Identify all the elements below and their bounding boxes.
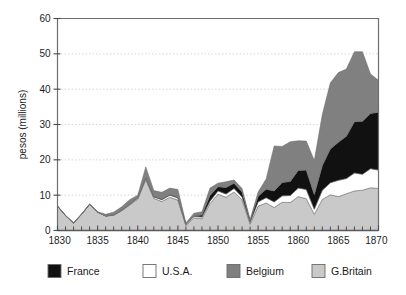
y-ticklabel-20: 20 xyxy=(39,154,51,165)
y-ticklabel-40: 40 xyxy=(39,84,51,95)
y-axis-title: pesos (millions) xyxy=(17,90,28,159)
y-ticklabel-60: 60 xyxy=(39,13,51,24)
stacked-area-chart: 0102030405060 18301835184018451850185518… xyxy=(0,0,406,295)
x-ticklabel-1865: 1865 xyxy=(327,235,350,246)
legend-label-u-s-a-: U.S.A. xyxy=(162,265,192,277)
x-ticklabel-1830: 1830 xyxy=(49,235,72,246)
y-axis-title-text: pesos (millions) xyxy=(17,90,28,159)
legend-swatch-belgium xyxy=(227,265,240,278)
y-ticklabel-10: 10 xyxy=(39,190,51,201)
legend-label-france: France xyxy=(67,265,100,277)
legend-label-g-britain: G.Britain xyxy=(331,265,372,277)
y-ticklabel-30: 30 xyxy=(39,119,51,130)
chart-figure: 0102030405060 18301835184018451850185518… xyxy=(0,0,406,295)
y-ticklabel-50: 50 xyxy=(39,48,51,59)
x-ticklabel-1835: 1835 xyxy=(87,235,110,246)
legend-swatch-u-s-a- xyxy=(143,265,156,278)
x-ticklabel-1860: 1860 xyxy=(287,235,310,246)
legend-swatch-france xyxy=(48,265,61,278)
x-ticklabel-1855: 1855 xyxy=(247,235,270,246)
x-ticklabel-1850: 1850 xyxy=(207,235,230,246)
x-axis-tick-labels: 183018351840184518501855186018651870 xyxy=(49,235,388,246)
x-ticklabel-1870: 1870 xyxy=(365,235,388,246)
legend-swatch-g-britain xyxy=(312,265,325,278)
x-ticklabel-1840: 1840 xyxy=(127,235,150,246)
legend-label-belgium: Belgium xyxy=(246,265,284,277)
x-ticklabel-1845: 1845 xyxy=(167,235,190,246)
